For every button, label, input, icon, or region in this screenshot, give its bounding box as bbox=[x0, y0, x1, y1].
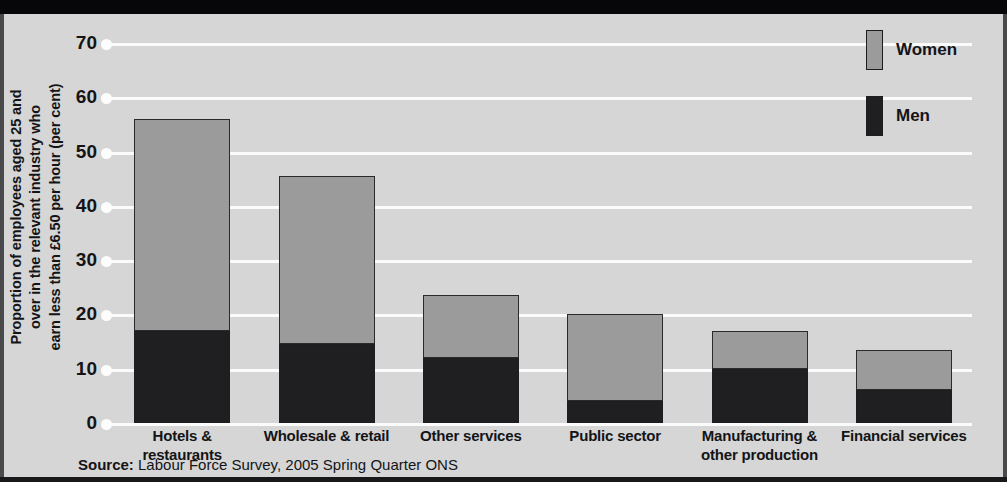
legend-swatch-women-icon bbox=[866, 30, 883, 70]
bar-segment-women[interactable] bbox=[567, 314, 663, 401]
x-axis-label-line: other production bbox=[687, 445, 831, 464]
bar-group[interactable] bbox=[279, 176, 375, 423]
y-tick-label-70: 70 bbox=[76, 32, 97, 54]
bar-group[interactable] bbox=[567, 314, 663, 423]
bar-group[interactable] bbox=[712, 331, 808, 423]
bar-segment-men[interactable] bbox=[856, 390, 952, 423]
y-tick-label-0: 0 bbox=[86, 412, 97, 434]
bar-segment-men[interactable] bbox=[712, 369, 808, 423]
legend-label-men: Men bbox=[896, 106, 930, 126]
bar-segment-men[interactable] bbox=[423, 358, 519, 423]
chart-legend: Women Men bbox=[866, 30, 957, 162]
y-axis-title-line-2: over in the relevant industry who bbox=[26, 105, 45, 329]
x-axis-label-line: Manufacturing & bbox=[687, 426, 831, 445]
bar-group[interactable] bbox=[856, 350, 952, 423]
y-tick-label-40: 40 bbox=[76, 195, 97, 217]
bar-segment-men[interactable] bbox=[567, 401, 663, 423]
x-axis-label-line: Financial services bbox=[832, 426, 976, 445]
bar-segment-women[interactable] bbox=[279, 176, 375, 344]
bar-segment-women[interactable] bbox=[134, 119, 230, 331]
figure-bottom-border bbox=[0, 477, 1007, 482]
y-tick-label-20: 20 bbox=[76, 303, 97, 325]
x-axis-label-2: Other services bbox=[399, 426, 543, 445]
x-axis-label-3: Public sector bbox=[543, 426, 687, 445]
chart-figure: Proportion of employees aged 25 and over… bbox=[0, 0, 1007, 482]
bar-segment-men[interactable] bbox=[134, 331, 230, 423]
bar-group[interactable] bbox=[423, 295, 519, 423]
y-tick-label-60: 60 bbox=[76, 86, 97, 108]
x-axis-label-line: Wholesale & retail bbox=[254, 426, 398, 445]
figure-right-border bbox=[1003, 14, 1007, 482]
bar-segment-women[interactable] bbox=[712, 331, 808, 369]
x-axis-label-1: Wholesale & retail bbox=[254, 426, 398, 445]
legend-swatch-men-icon bbox=[866, 96, 883, 136]
legend-entry-women: Women bbox=[866, 30, 957, 70]
bar-segment-men[interactable] bbox=[279, 344, 375, 423]
source-note: Source: Labour Force Survey, 2005 Spring… bbox=[78, 456, 458, 473]
x-axis-label-4: Manufacturing &other production bbox=[687, 426, 831, 464]
x-axis-label-line: Public sector bbox=[543, 426, 687, 445]
y-axis-title-line-3: earn less than £6.50 per hour (per cent) bbox=[46, 84, 65, 351]
x-axis-label-line: Other services bbox=[399, 426, 543, 445]
bar-series-container bbox=[106, 43, 972, 423]
source-prefix: Source: bbox=[78, 456, 134, 473]
bar-segment-women[interactable] bbox=[423, 295, 519, 357]
bar-group[interactable] bbox=[134, 119, 230, 423]
y-axis-title-line-1: Proportion of employees aged 25 and bbox=[7, 89, 26, 344]
bar-segment-women[interactable] bbox=[856, 350, 952, 391]
figure-left-border bbox=[0, 14, 4, 482]
top-black-band bbox=[0, 0, 1007, 14]
legend-label-women: Women bbox=[896, 40, 957, 60]
legend-entry-men: Men bbox=[866, 96, 957, 136]
y-axis-title: Proportion of employees aged 25 and over… bbox=[8, 22, 64, 412]
y-tick-label-50: 50 bbox=[76, 141, 97, 163]
x-axis-label-5: Financial services bbox=[832, 426, 976, 445]
plot-area: 010203040506070 bbox=[106, 43, 972, 423]
x-axis-label-line: Hotels & bbox=[110, 426, 254, 445]
source-text: Labour Force Survey, 2005 Spring Quarter… bbox=[134, 456, 458, 473]
y-tick-label-10: 10 bbox=[76, 358, 97, 380]
y-tick-label-30: 30 bbox=[76, 249, 97, 271]
